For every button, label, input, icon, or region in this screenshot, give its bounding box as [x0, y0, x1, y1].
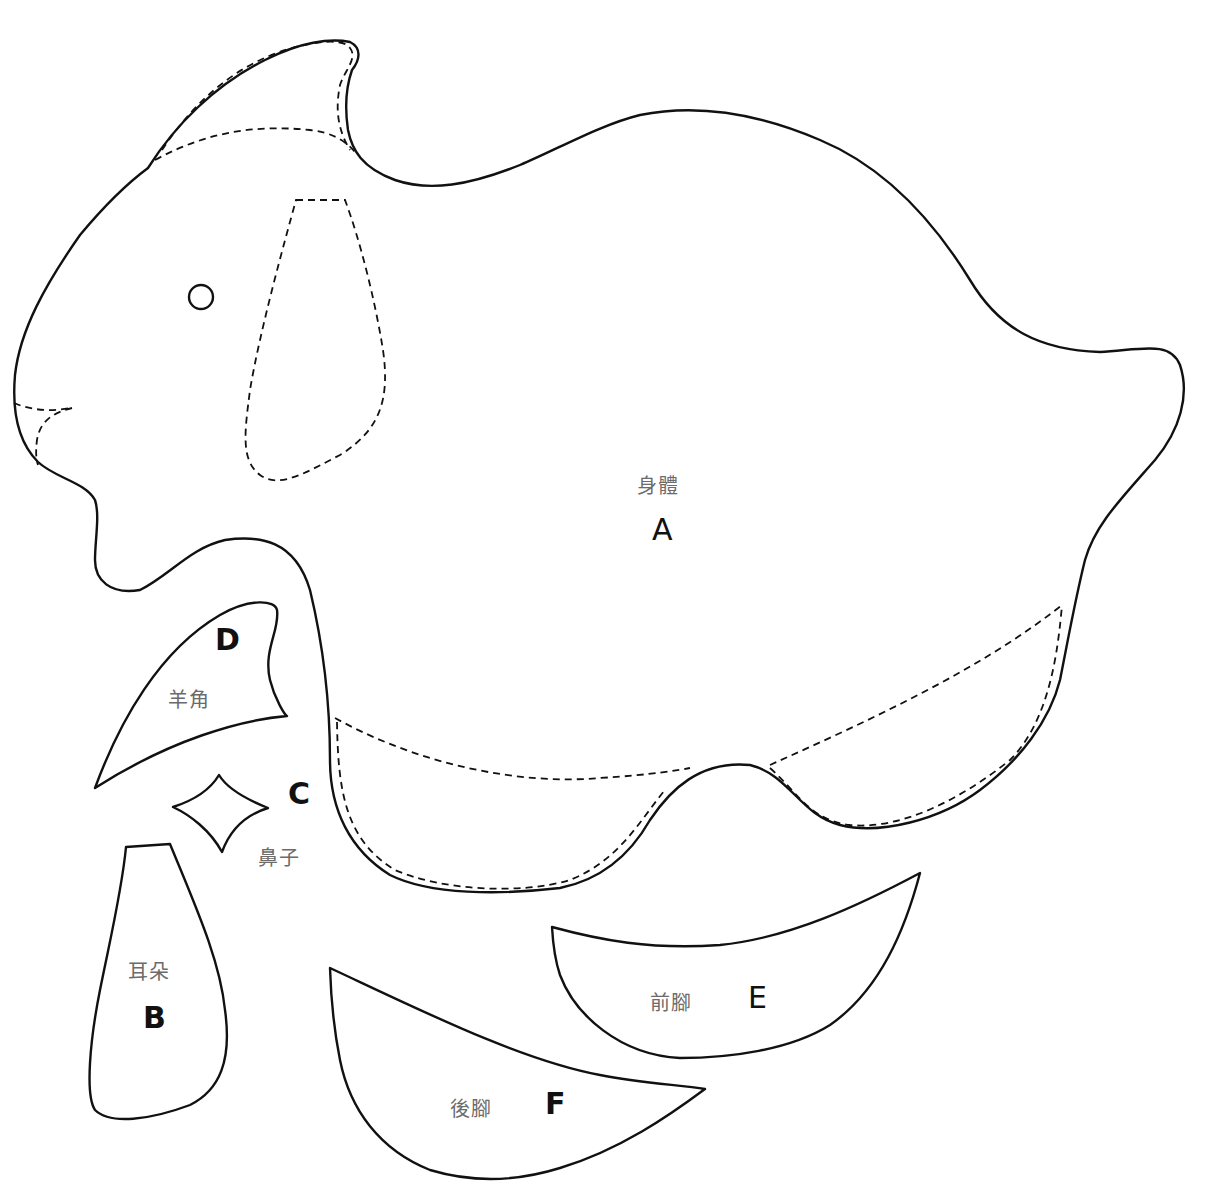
front-leg-piece-name: 前腳 — [650, 987, 692, 1016]
horn-piece-name: 羊角 — [168, 684, 210, 713]
ear-piece-letter: B — [143, 1000, 166, 1035]
back-leg-piece-letter: F — [545, 1086, 566, 1121]
ear-placement-stitch — [246, 200, 386, 480]
nose-piece-name: 鼻子 — [258, 842, 300, 871]
pattern-drawing — [0, 0, 1215, 1194]
belly-stitch-line — [335, 605, 1062, 779]
front-leg-piece-letter: E — [748, 980, 767, 1015]
mouth-stitch — [14, 403, 72, 465]
back-leg-piece-name: 後腳 — [450, 1093, 492, 1122]
body-piece-name: 身體 — [637, 470, 679, 499]
nose-piece-letter: C — [288, 776, 310, 811]
horn-inner-stitch — [162, 42, 353, 150]
horn-stitch-line — [155, 128, 355, 160]
body-piece-letter: A — [652, 512, 673, 547]
back-leg-piece-outline — [330, 968, 705, 1179]
front-leg-piece-outline — [552, 873, 920, 1058]
body-piece-outline — [14, 41, 1184, 893]
leg-inner-stitch — [337, 605, 1062, 889]
horn-piece-letter: D — [215, 622, 240, 657]
ear-piece-name: 耳朵 — [128, 956, 170, 985]
pattern-canvas: 身體 A 耳朵 B C 鼻子 D 羊角 前腳 E 後腳 F — [0, 0, 1215, 1194]
eye-mark — [189, 285, 213, 309]
nose-piece-outline — [173, 775, 268, 852]
